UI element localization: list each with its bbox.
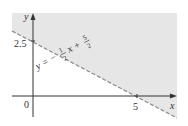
origin-label: 0 [24, 99, 29, 110]
x-tick-label: 5 [133, 101, 138, 112]
eq-prefix: y = − [32, 51, 58, 72]
x-axis-label: x [169, 100, 175, 111]
y-tick-label: 2.5 [14, 38, 27, 49]
inequality-graph: y x 0 2.5 5 y = − 1 2 x + 5 2 [0, 0, 188, 126]
y-axis-label: y [23, 11, 29, 22]
